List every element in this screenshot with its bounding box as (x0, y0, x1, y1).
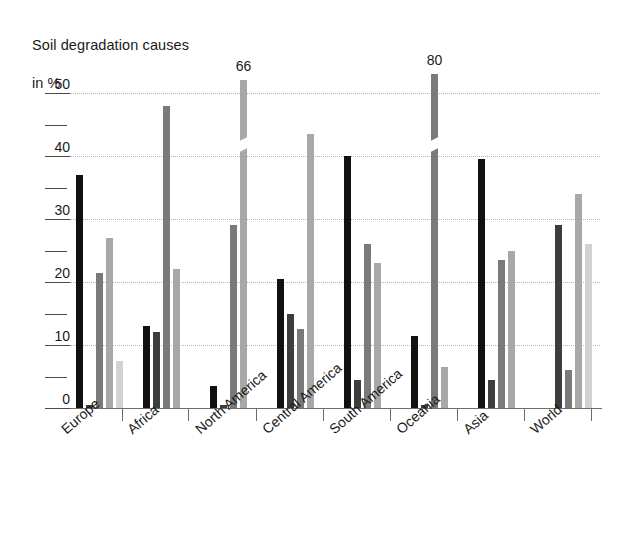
x-axis-label-oceania: Oceania (393, 391, 443, 437)
x-axis-label-north-america: North America (192, 367, 269, 437)
x-axis-label-africa: Africa (124, 402, 162, 438)
x-tick (188, 408, 189, 421)
x-axis-label-world: World (527, 401, 565, 437)
x-tick (591, 408, 592, 421)
x-tick (256, 408, 257, 421)
chart-root: Soil degradation causes in % 01020304050… (0, 0, 632, 534)
x-axis-label-asia: Asia (460, 407, 491, 437)
x-tick (457, 408, 458, 421)
x-tick (323, 408, 324, 421)
x-axis-labels: EuropeAfricaNorth AmericaCentral America… (0, 0, 632, 534)
x-tick (524, 408, 525, 421)
x-tick (390, 408, 391, 421)
x-tick (122, 408, 123, 421)
x-axis-label-europe: Europe (58, 395, 103, 437)
